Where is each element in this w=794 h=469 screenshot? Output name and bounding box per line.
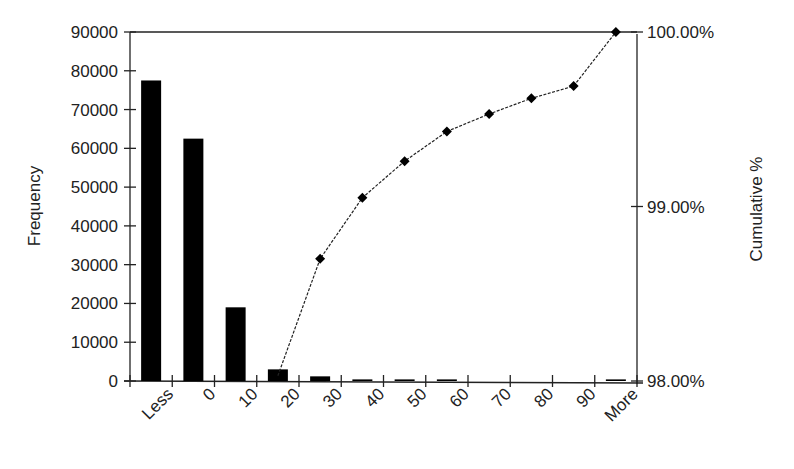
y2-axis-ticks: 98.00%99.00%100.00% (631, 23, 714, 391)
y-axis-title: Frequency (25, 165, 44, 246)
frequency-bars (141, 80, 626, 381)
frequency-bar (226, 307, 246, 381)
frequency-bar (141, 80, 161, 381)
x-tick-label: 20 (277, 384, 304, 411)
y-tick-label: 80000 (71, 62, 118, 81)
pareto-chart: 0100002000030000400005000060000700008000… (0, 0, 794, 469)
diamond-marker (315, 254, 325, 264)
y2-tick-label: 100.00% (647, 23, 714, 42)
y2-tick-label: 99.00% (647, 198, 705, 217)
y2-axis-title: Cumulative % (747, 157, 766, 262)
frequency-bar (606, 379, 626, 381)
y-axis-ticks: 0100002000030000400005000060000700008000… (71, 23, 136, 391)
frequency-bar (183, 139, 203, 381)
x-tick-label: 50 (404, 384, 431, 411)
y-tick-label: 50000 (71, 178, 118, 197)
y-tick-label: 30000 (71, 256, 118, 275)
x-tick-label: Less (138, 384, 177, 423)
cumulative-line (278, 27, 621, 376)
x-tick-label: 60 (446, 384, 473, 411)
x-tick-label: 10 (235, 384, 262, 411)
y-tick-label: 0 (109, 372, 118, 391)
frequency-bar (352, 379, 372, 381)
y-tick-label: 20000 (71, 294, 118, 313)
frequency-bar (310, 376, 330, 381)
x-tick-label: 30 (319, 384, 346, 411)
y-tick-label: 60000 (71, 139, 118, 158)
y2-tick-label: 98.00% (647, 372, 705, 391)
x-tick-label: 40 (362, 384, 389, 411)
cumulative-polyline (278, 32, 616, 376)
frequency-bar (437, 379, 457, 381)
x-tick-label: 0 (199, 384, 219, 404)
diamond-marker (442, 126, 452, 136)
diamond-marker (484, 109, 494, 119)
x-tick-label: 90 (573, 384, 600, 411)
diamond-marker (611, 27, 621, 37)
diamond-marker (569, 81, 579, 91)
y-tick-label: 10000 (71, 333, 118, 352)
y-tick-label: 90000 (71, 23, 118, 42)
x-tick-label: More (601, 384, 642, 425)
diamond-marker (526, 93, 536, 103)
y-tick-label: 70000 (71, 101, 118, 120)
x-tick-label: 70 (488, 384, 515, 411)
y-tick-label: 40000 (71, 217, 118, 236)
frequency-bar (395, 379, 415, 381)
x-tick-label: 80 (531, 384, 558, 411)
